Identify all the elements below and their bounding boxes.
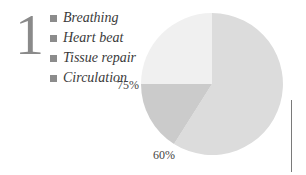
- label-60: 60%: [153, 148, 175, 163]
- vertical-rule: [291, 100, 292, 172]
- pie-slice-light: [141, 13, 212, 84]
- label-75: 75%: [117, 78, 139, 93]
